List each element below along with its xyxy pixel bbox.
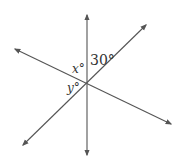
rising-diagonal-line	[23, 25, 146, 145]
intersecting-lines-diagram: 30° x° y°	[0, 0, 182, 168]
angle-label-30: 30°	[90, 52, 115, 68]
angle-label-x: x°	[72, 62, 85, 76]
angle-label-y: y°	[66, 81, 80, 95]
